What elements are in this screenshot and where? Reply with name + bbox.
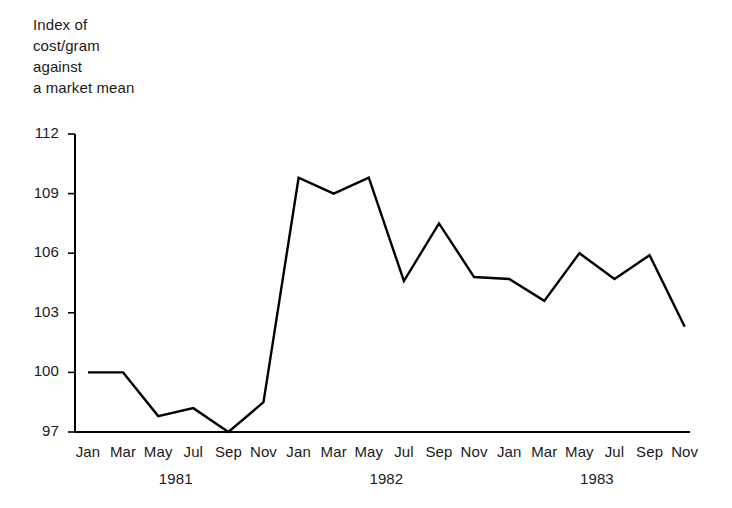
chart-plot-area: [0, 0, 732, 508]
x-axis-year-label: 1981: [146, 470, 206, 487]
y-axis-tick-label: 109: [25, 184, 59, 201]
y-axis-tick-label: 97: [25, 422, 59, 439]
chart-container: Index of cost/gram against a market mean…: [0, 0, 732, 508]
x-axis-tick-label: Nov: [664, 443, 706, 460]
y-axis-tick-label: 112: [25, 124, 59, 141]
y-axis-tick-label: 103: [25, 303, 59, 320]
y-axis-ticks: [68, 134, 75, 432]
chart-axes: [68, 134, 690, 432]
data-series-line: [88, 178, 685, 432]
y-axis-tick-label: 100: [25, 362, 59, 379]
x-axis-year-label: 1983: [567, 470, 627, 487]
y-axis-tick-label: 106: [25, 243, 59, 260]
x-axis-year-label: 1982: [356, 470, 416, 487]
